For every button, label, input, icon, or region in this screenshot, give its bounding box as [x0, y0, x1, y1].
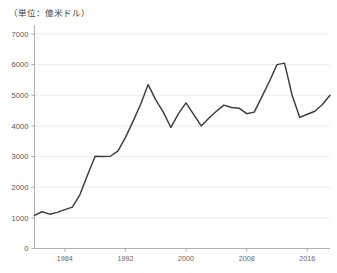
line-chart-plot: 01000200030004000500060007000 1984199220…	[0, 0, 337, 273]
x-tick-label: 2000	[178, 254, 194, 263]
x-axis-ticks	[65, 249, 307, 252]
y-tick-label: 3000	[12, 152, 29, 161]
y-axis-ticks	[31, 34, 34, 249]
chart-container: （単位：億米ドル） 01000200030004000500060007000 …	[0, 0, 337, 273]
y-tick-label: 6000	[12, 60, 29, 69]
y-tick-label: 4000	[12, 122, 29, 131]
x-tick-label: 1992	[117, 254, 133, 263]
y-tick-label: 2000	[12, 183, 29, 192]
data-series-line	[35, 63, 331, 215]
y-tick-label: 0	[24, 244, 28, 253]
gridlines	[35, 34, 331, 218]
y-tick-label: 7000	[12, 30, 29, 39]
y-tick-label: 1000	[12, 214, 29, 223]
x-tick-label: 2008	[239, 254, 255, 263]
x-tick-label: 1984	[57, 254, 73, 263]
y-tick-label: 5000	[12, 91, 29, 100]
x-axis-labels: 19841992200020082016	[57, 254, 315, 263]
x-tick-label: 2016	[299, 254, 315, 263]
y-axis-labels: 01000200030004000500060007000	[12, 30, 29, 254]
